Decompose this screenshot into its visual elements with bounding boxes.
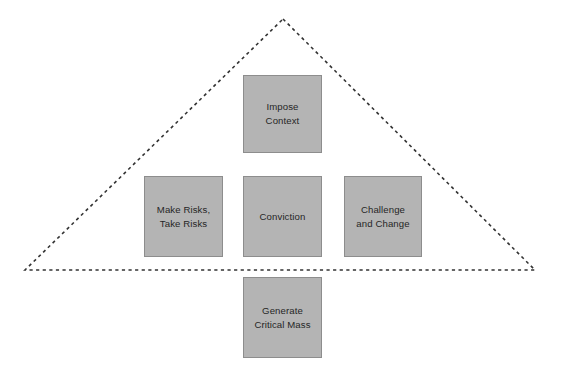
concept-box-label: Impose Context bbox=[262, 100, 304, 128]
concept-box-generate-critical-mass[interactable]: Generate Critical Mass bbox=[243, 277, 322, 358]
concept-box-label: Challenge and Change bbox=[352, 203, 413, 231]
pyramid-diagram-canvas: Impose Context Make Risks, Take Risks Co… bbox=[0, 0, 565, 379]
concept-box-conviction[interactable]: Conviction bbox=[243, 176, 322, 257]
concept-box-challenge-and-change[interactable]: Challenge and Change bbox=[344, 176, 422, 257]
concept-box-label: Conviction bbox=[256, 210, 310, 224]
concept-box-impose-context[interactable]: Impose Context bbox=[243, 75, 322, 153]
concept-box-label: Make Risks, Take Risks bbox=[153, 203, 214, 231]
concept-box-label: Generate Critical Mass bbox=[250, 304, 314, 332]
concept-box-make-risks-take-risks[interactable]: Make Risks, Take Risks bbox=[144, 176, 223, 257]
